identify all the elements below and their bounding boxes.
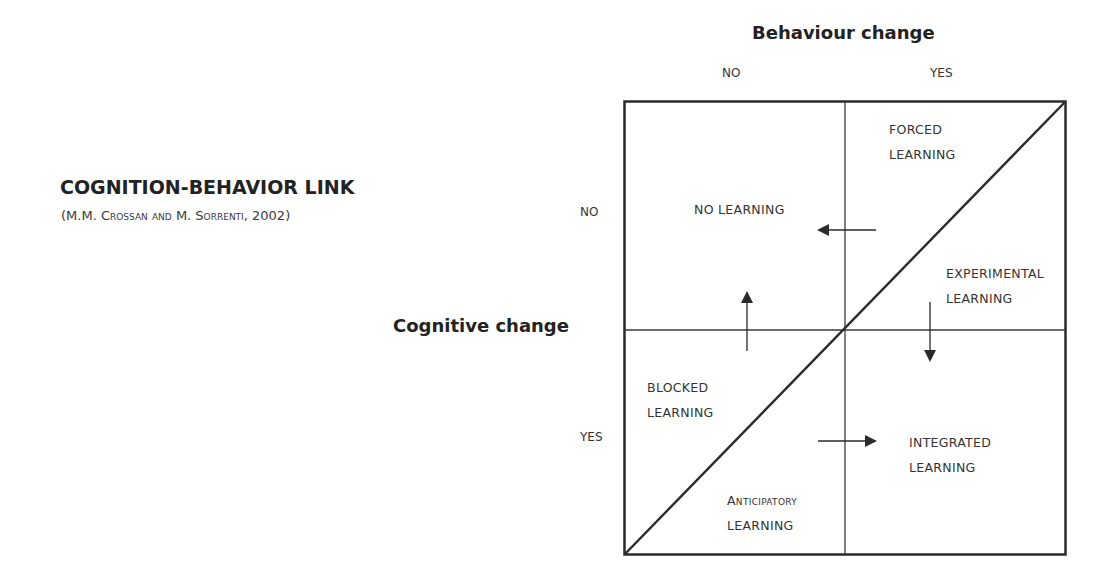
forced-learning-label: FORCED LEARNING — [889, 117, 956, 167]
arrow-up-icon — [741, 291, 753, 351]
arrow-left-icon — [817, 224, 876, 236]
arrow-right-icon — [818, 435, 877, 447]
arrow-down-icon — [924, 302, 936, 362]
anticipatory-learning-line1: Anticipatory — [727, 488, 797, 513]
anticipatory-learning-label: Anticipatory LEARNING — [727, 488, 797, 538]
blocked-learning-line2: LEARNING — [647, 400, 714, 425]
integrated-learning-label: INTEGRATED LEARNING — [909, 430, 991, 480]
anticipatory-learning-line2: LEARNING — [727, 513, 797, 538]
no-learning-line1: NO LEARNING — [694, 197, 785, 222]
forced-learning-line2: LEARNING — [889, 142, 956, 167]
experimental-learning-label: EXPERIMENTAL LEARNING — [946, 261, 1044, 311]
integrated-learning-line1: INTEGRATED — [909, 430, 991, 455]
blocked-learning-label: BLOCKED LEARNING — [647, 375, 714, 425]
blocked-learning-line1: BLOCKED — [647, 375, 714, 400]
experimental-learning-line1: EXPERIMENTAL — [946, 261, 1044, 286]
forced-learning-line1: FORCED — [889, 117, 956, 142]
no-learning-label: NO LEARNING — [694, 197, 785, 222]
experimental-learning-line2: LEARNING — [946, 286, 1044, 311]
integrated-learning-line2: LEARNING — [909, 455, 991, 480]
